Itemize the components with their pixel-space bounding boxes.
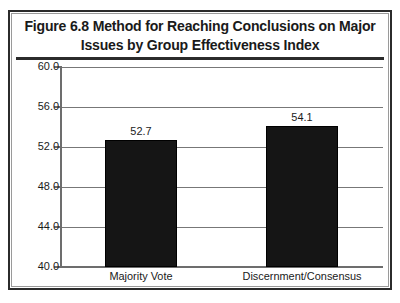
gridline (60, 67, 383, 68)
figure-container: Figure 6.8 Method for Reaching Conclusio… (0, 0, 400, 303)
x-axis-category-label: Majority Vote (65, 270, 217, 283)
y-axis-tick-label: 60.0 (15, 61, 59, 72)
gridline (60, 107, 383, 108)
y-axis-tick-label: 56.0 (15, 101, 59, 112)
bar-value-label: 52.7 (103, 125, 179, 137)
y-axis-tick-label: 52.0 (15, 141, 59, 152)
y-axis-tick-label: 40.0 (15, 261, 59, 272)
y-axis-line (60, 66, 62, 268)
y-axis-tick-label: 44.0 (15, 221, 59, 232)
bar (105, 140, 177, 267)
bar-value-label: 54.1 (264, 111, 340, 123)
plot-area: 60.056.052.048.044.040.0 52.7Majority Vo… (0, 0, 400, 303)
x-axis-category-label: Discernment/Consensus (226, 270, 378, 283)
y-axis-tick-label: 48.0 (15, 181, 59, 192)
bar (266, 126, 338, 267)
